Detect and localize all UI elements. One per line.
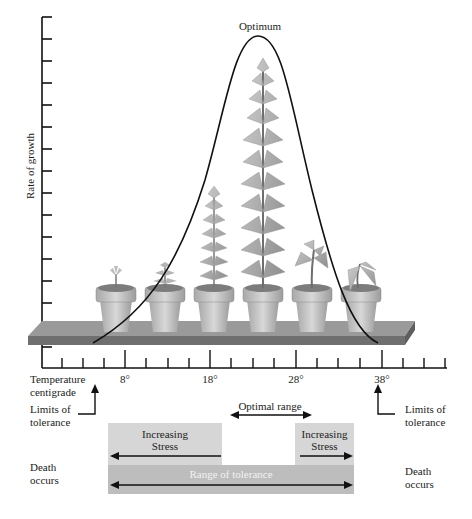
bar-arrows xyxy=(0,0,472,519)
stress-left-arrow xyxy=(110,452,221,460)
range-of-tolerance-arrow xyxy=(110,481,353,489)
stress-right-arrow xyxy=(300,452,353,460)
